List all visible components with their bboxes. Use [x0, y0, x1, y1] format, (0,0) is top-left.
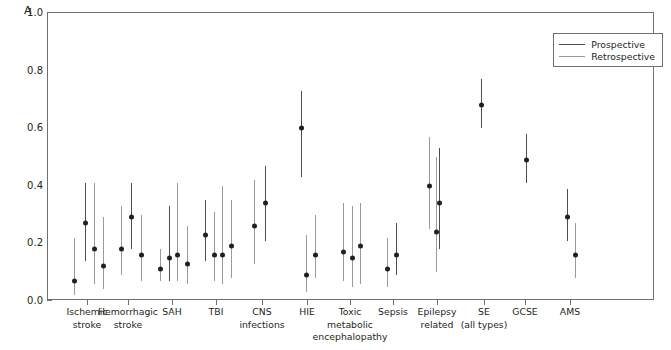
error-bar [169, 206, 170, 281]
x-tick-mark [172, 300, 173, 305]
y-tick-mark [47, 300, 52, 301]
data-point [437, 201, 442, 206]
data-point [479, 103, 484, 108]
data-point [304, 273, 309, 278]
x-tick-label: Sepsis [378, 306, 408, 319]
data-point [72, 278, 77, 283]
data-point [220, 252, 225, 257]
data-point [573, 252, 578, 257]
data-point [524, 157, 529, 162]
error-bar [187, 226, 188, 284]
error-bar [160, 249, 161, 281]
error-bar [74, 238, 75, 296]
data-point [394, 252, 399, 257]
x-tick-mark [216, 300, 217, 305]
data-point [385, 267, 390, 272]
x-tick-label: Epilepsy related [418, 306, 457, 331]
error-bar [231, 200, 232, 278]
x-tick-mark [484, 300, 485, 305]
error-bar [439, 148, 440, 249]
legend-swatch [559, 44, 585, 45]
data-point [212, 252, 217, 257]
x-tick-label: Toxic metabolic encephalopathy [313, 306, 388, 344]
chart-legend: ProspectiveRetrospective [553, 33, 663, 67]
error-bar [301, 91, 302, 177]
error-bar [103, 217, 104, 289]
legend-label: Retrospective [591, 51, 655, 62]
data-point [158, 267, 163, 272]
error-bar [436, 157, 437, 272]
error-bar [205, 200, 206, 260]
error-bar [396, 223, 397, 275]
data-point [434, 229, 439, 234]
error-bar [306, 235, 307, 293]
x-tick-mark [350, 300, 351, 305]
error-bar [575, 223, 576, 278]
data-point [350, 255, 355, 260]
legend-item: Prospective [559, 38, 655, 50]
x-tick-mark [87, 300, 88, 305]
error-bar [222, 186, 223, 284]
data-point [358, 244, 363, 249]
x-tick-mark [262, 300, 263, 305]
data-point [139, 252, 144, 257]
data-point [299, 126, 304, 131]
error-bar [94, 183, 95, 284]
x-tick-mark [570, 300, 571, 305]
data-point [263, 201, 268, 206]
legend-label: Prospective [591, 39, 645, 50]
error-bar [254, 180, 255, 264]
data-point [341, 250, 346, 255]
data-point [83, 221, 88, 226]
error-bar [121, 206, 122, 275]
data-point [119, 247, 124, 252]
data-point [167, 255, 172, 260]
data-point [565, 215, 570, 220]
x-tick-mark [128, 300, 129, 305]
x-tick-mark [525, 300, 526, 305]
error-bar [343, 203, 344, 281]
error-bar [315, 215, 316, 278]
x-tick-label: TBI [209, 306, 224, 319]
error-bar [177, 183, 178, 281]
data-point [101, 264, 106, 269]
error-bar [214, 212, 215, 281]
data-point [129, 215, 134, 220]
x-tick-label: CNS infections [239, 306, 284, 331]
x-tick-mark [307, 300, 308, 305]
x-tick-label: SE (all types) [461, 306, 508, 331]
x-tick-label: Hemorrhagic stroke [98, 306, 158, 331]
error-bar [141, 215, 142, 281]
data-point [175, 252, 180, 257]
x-tick-mark [393, 300, 394, 305]
x-tick-label: SAH [162, 306, 181, 319]
x-tick-label: GCSE [512, 306, 537, 319]
data-point [427, 183, 432, 188]
chart-figure: A Proportion with electrographic seizure… [0, 0, 671, 350]
x-tick-mark [437, 300, 438, 305]
error-bar [352, 206, 353, 287]
data-point [185, 261, 190, 266]
data-point [229, 244, 234, 249]
data-point [313, 252, 318, 257]
legend-item: Retrospective [559, 50, 655, 62]
data-point [92, 247, 97, 252]
error-bar [387, 238, 388, 287]
legend-swatch [559, 56, 585, 57]
x-tick-label: AMS [560, 306, 580, 319]
data-point [252, 224, 257, 229]
data-point [203, 232, 208, 237]
